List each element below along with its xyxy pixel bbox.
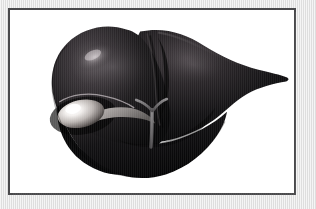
page-root	[0, 0, 316, 209]
figure-frame	[8, 8, 296, 195]
portal-vein-trunk	[151, 110, 152, 147]
liver-illustration	[10, 10, 294, 193]
